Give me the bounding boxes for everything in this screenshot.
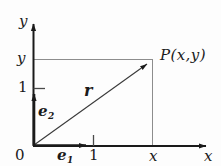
- origin-label: 0: [15, 148, 25, 163]
- x-value-tick-label: x: [149, 149, 157, 164]
- x-unit-tick-label: 1: [89, 148, 99, 163]
- y-axis-label: y: [19, 14, 27, 29]
- basis-vector-e1-label: e1: [57, 148, 73, 165]
- basis-vector-e1-symbol: e: [57, 146, 67, 164]
- x-axis-label: x: [204, 149, 212, 164]
- position-vector-label: r: [84, 83, 92, 99]
- basis-vector-e1-subscript: 1: [67, 155, 73, 165]
- basis-vector-e2-label: e2: [38, 104, 54, 121]
- point-p-label: P(x,y): [160, 48, 206, 63]
- basis-vector-e2-subscript: 2: [48, 111, 54, 121]
- y-value-tick-label: y: [17, 51, 25, 66]
- figure-canvas: [0, 0, 221, 166]
- position-vector-figure: y y 1 0 1 x x e1 e2 r P(x,y): [0, 0, 221, 166]
- y-unit-tick-label: 1: [18, 80, 28, 95]
- basis-vector-e2-symbol: e: [38, 102, 48, 120]
